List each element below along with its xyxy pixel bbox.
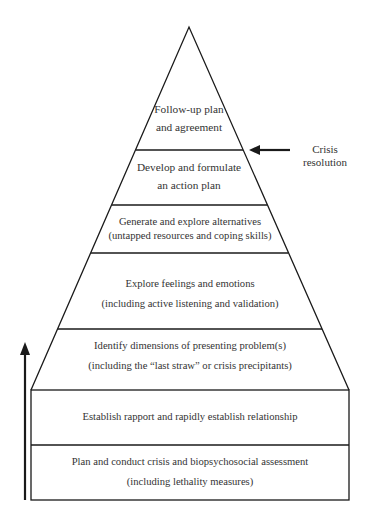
- layer-3-line-1: Identify dimensions of presenting proble…: [60, 336, 320, 356]
- layer-7-label: Follow-up plan and agreement: [139, 100, 239, 136]
- progress-arrow-head-icon: [20, 342, 30, 355]
- layer-3-line-2: (including the “last straw” or crisis pr…: [60, 356, 320, 376]
- layer-6-label: Develop and formulate an action plan: [119, 158, 259, 194]
- layer-2-label: Establish rapport and rapidly establish …: [31, 407, 349, 427]
- layer-6-line-1: Develop and formulate: [119, 158, 259, 176]
- crisis-arrow-head-icon: [249, 145, 260, 155]
- pyramid-diagram: [0, 0, 367, 525]
- layer-5-label: Generate and explore alternatives (untap…: [95, 215, 285, 243]
- layer-2-line-1: Establish rapport and rapidly establish …: [31, 407, 349, 427]
- crisis-resolution-line-1: Crisis: [295, 143, 355, 156]
- layer-5-line-1: Generate and explore alternatives: [95, 215, 285, 229]
- crisis-resolution-line-2: resolution: [295, 156, 355, 169]
- layer-4-line-2: (including active listening and validati…: [80, 294, 300, 314]
- layer-3-label: Identify dimensions of presenting proble…: [60, 336, 320, 376]
- layer-1-label: Plan and conduct crisis and biopsychosoc…: [31, 452, 349, 492]
- layer-5-line-2: (untapped resources and coping skills): [95, 229, 285, 243]
- layer-7-line-1: Follow-up plan: [139, 100, 239, 118]
- layer-1-line-1: Plan and conduct crisis and biopsychosoc…: [31, 452, 349, 472]
- crisis-resolution-label: Crisis resolution: [295, 143, 355, 169]
- layer-6-line-2: an action plan: [119, 176, 259, 194]
- layer-1-line-2: (including lethality measures): [31, 472, 349, 492]
- layer-4-label: Explore feelings and emotions (including…: [80, 274, 300, 314]
- layer-4-line-1: Explore feelings and emotions: [80, 274, 300, 294]
- layer-7-line-2: and agreement: [139, 118, 239, 136]
